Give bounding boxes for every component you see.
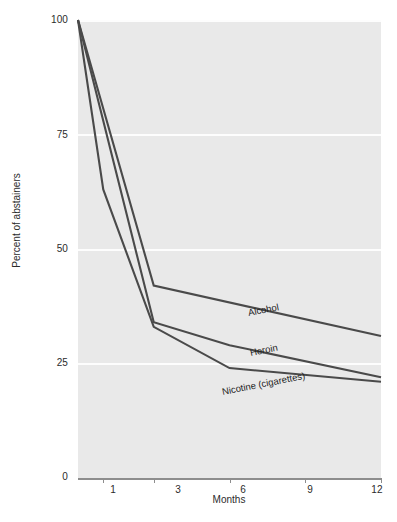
y-axis-title: Percent of abstainers [11,156,22,286]
x-tick-6 [230,479,231,483]
x-tick-label-3: 3 [163,484,193,495]
y-tick-label-75: 75 [34,129,68,140]
x-tick-12 [381,479,382,483]
y-tick-label-0: 0 [34,471,68,482]
x-axis-title: Months [199,494,259,505]
relapse-curve-figure: Alcohol Heroin Nicotine (cigarettes) 100… [0,0,397,522]
x-tick-3 [154,479,155,483]
y-tick-label-25: 25 [34,357,68,368]
x-tick-label-9: 9 [295,484,325,495]
y-tick-label-100: 100 [34,14,68,25]
x-tick-label-12: 12 [362,484,392,495]
series-line-heroin [78,20,381,377]
x-tick-label-1: 1 [98,484,128,495]
x-tick-9 [305,479,306,483]
series-lines [0,0,397,522]
y-tick-label-50: 50 [34,243,68,254]
x-tick-1 [103,479,104,483]
series-line-alcohol [78,20,381,336]
